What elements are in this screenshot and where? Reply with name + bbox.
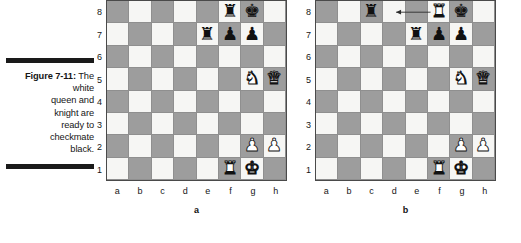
square-h2[interactable]: ♟: [473, 135, 495, 157]
square-b8[interactable]: [129, 1, 151, 23]
square-f8[interactable]: ♜: [428, 1, 450, 23]
square-h4[interactable]: [264, 91, 286, 113]
square-f3[interactable]: [219, 113, 241, 135]
square-e7[interactable]: ♜: [197, 23, 219, 45]
square-h6[interactable]: [473, 46, 495, 68]
square-g1[interactable]: ♚: [450, 158, 472, 180]
square-b7[interactable]: [338, 23, 360, 45]
square-a3[interactable]: [316, 113, 338, 135]
square-e1[interactable]: [406, 158, 428, 180]
square-f6[interactable]: [219, 46, 241, 68]
white-pawn-icon[interactable]: ♟: [244, 136, 260, 154]
square-h7[interactable]: [264, 23, 286, 45]
square-b1[interactable]: [338, 158, 360, 180]
square-g2[interactable]: ♟: [241, 135, 263, 157]
square-g4[interactable]: [450, 91, 472, 113]
square-e3[interactable]: [197, 113, 219, 135]
square-f7[interactable]: ♟: [219, 23, 241, 45]
square-a6[interactable]: [316, 46, 338, 68]
square-h6[interactable]: [264, 46, 286, 68]
square-e7[interactable]: ♜: [406, 23, 428, 45]
square-c5[interactable]: [152, 68, 174, 90]
square-b1[interactable]: [129, 158, 151, 180]
chessboard-a[interactable]: ♜♚♜♟♟♞♛♟♟♜♚: [106, 0, 287, 181]
black-pawn-icon[interactable]: ♟: [244, 25, 260, 43]
white-queen-icon[interactable]: ♛: [475, 69, 491, 87]
square-g8[interactable]: ♚: [241, 1, 263, 23]
square-b8[interactable]: [338, 1, 360, 23]
square-b3[interactable]: [129, 113, 151, 135]
square-d7[interactable]: [174, 23, 196, 45]
square-b2[interactable]: [338, 135, 360, 157]
square-g4[interactable]: [241, 91, 263, 113]
square-a3[interactable]: [107, 113, 129, 135]
square-a5[interactable]: [107, 68, 129, 90]
square-c7[interactable]: [152, 23, 174, 45]
square-e6[interactable]: [406, 46, 428, 68]
square-f4[interactable]: [428, 91, 450, 113]
black-pawn-icon[interactable]: ♟: [431, 25, 447, 43]
black-rook-icon[interactable]: ♜: [363, 2, 379, 20]
square-f5[interactable]: [219, 68, 241, 90]
white-pawn-icon[interactable]: ♟: [266, 136, 282, 154]
black-rook-icon[interactable]: ♜: [199, 25, 215, 43]
square-h3[interactable]: [473, 113, 495, 135]
white-knight-icon[interactable]: ♞: [244, 69, 260, 87]
square-h1[interactable]: [264, 158, 286, 180]
square-c3[interactable]: [361, 113, 383, 135]
square-d6[interactable]: [174, 46, 196, 68]
black-king-icon[interactable]: ♚: [453, 2, 469, 20]
square-f2[interactable]: [428, 135, 450, 157]
square-c4[interactable]: [152, 91, 174, 113]
square-b4[interactable]: [338, 91, 360, 113]
square-f2[interactable]: [219, 135, 241, 157]
square-g3[interactable]: [241, 113, 263, 135]
square-a4[interactable]: [316, 91, 338, 113]
square-h7[interactable]: [473, 23, 495, 45]
white-knight-icon[interactable]: ♞: [453, 69, 469, 87]
black-king-icon[interactable]: ♚: [244, 2, 260, 20]
square-d5[interactable]: [383, 68, 405, 90]
white-rook-icon[interactable]: ♜: [431, 2, 447, 20]
square-d4[interactable]: [383, 91, 405, 113]
square-h3[interactable]: [264, 113, 286, 135]
square-c4[interactable]: [361, 91, 383, 113]
square-d4[interactable]: [174, 91, 196, 113]
black-rook-icon[interactable]: ♜: [408, 25, 424, 43]
white-rook-icon[interactable]: ♜: [431, 159, 447, 177]
black-pawn-icon[interactable]: ♟: [222, 25, 238, 43]
square-h2[interactable]: ♟: [264, 135, 286, 157]
square-c1[interactable]: [361, 158, 383, 180]
square-b7[interactable]: [129, 23, 151, 45]
square-d2[interactable]: [383, 135, 405, 157]
square-d3[interactable]: [174, 113, 196, 135]
square-a2[interactable]: [316, 135, 338, 157]
square-g1[interactable]: ♚: [241, 158, 263, 180]
square-c8[interactable]: [152, 1, 174, 23]
square-d6[interactable]: [383, 46, 405, 68]
square-d3[interactable]: [383, 113, 405, 135]
square-e8[interactable]: [406, 1, 428, 23]
square-h8[interactable]: [264, 1, 286, 23]
square-c2[interactable]: [152, 135, 174, 157]
square-b2[interactable]: [129, 135, 151, 157]
square-g2[interactable]: ♟: [450, 135, 472, 157]
square-c1[interactable]: [152, 158, 174, 180]
square-h8[interactable]: [473, 1, 495, 23]
square-f1[interactable]: ♜: [219, 158, 241, 180]
white-rook-icon[interactable]: ♜: [222, 159, 238, 177]
square-a5[interactable]: [316, 68, 338, 90]
square-b5[interactable]: [129, 68, 151, 90]
square-f3[interactable]: [428, 113, 450, 135]
square-a1[interactable]: [107, 158, 129, 180]
square-h5[interactable]: ♛: [264, 68, 286, 90]
square-e5[interactable]: [197, 68, 219, 90]
square-e6[interactable]: [197, 46, 219, 68]
black-rook-icon[interactable]: ♜: [222, 2, 238, 20]
square-e8[interactable]: [197, 1, 219, 23]
square-e5[interactable]: [406, 68, 428, 90]
square-d2[interactable]: [174, 135, 196, 157]
square-a2[interactable]: [107, 135, 129, 157]
square-a4[interactable]: [107, 91, 129, 113]
square-a7[interactable]: [107, 23, 129, 45]
